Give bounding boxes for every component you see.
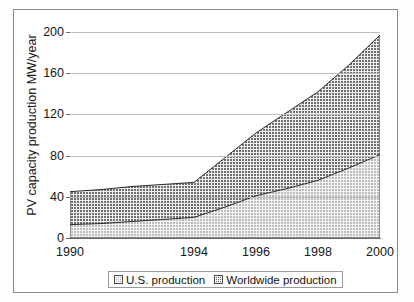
gridline xyxy=(70,114,380,115)
y-tick-label: 200 xyxy=(4,25,64,39)
y-tick-label: 120 xyxy=(4,107,64,121)
us-swatch-icon xyxy=(114,275,123,284)
legend-label-worldwide-production: Worldwide production xyxy=(226,274,336,286)
x-tick-label: 1998 xyxy=(304,245,332,259)
gridline xyxy=(70,73,380,74)
chart-legend: U.S. production Worldwide production xyxy=(108,271,343,288)
y-tick-label: 80 xyxy=(4,149,64,163)
area-series-group xyxy=(70,32,380,238)
x-tick-label: 1994 xyxy=(180,245,208,259)
y-tick-label: 0 xyxy=(4,231,64,245)
plot-area xyxy=(70,32,380,238)
x-axis-line xyxy=(70,238,381,239)
x-tick-label: 1996 xyxy=(242,245,270,259)
gridline xyxy=(70,32,380,33)
worldwide-swatch-icon xyxy=(214,275,223,284)
y-tick-label: 40 xyxy=(4,190,64,204)
x-tick-label: 2000 xyxy=(366,245,394,259)
x-tick-label: 1990 xyxy=(56,245,84,259)
gridline xyxy=(70,197,380,198)
legend-entry-worldwide-production: Worldwide production xyxy=(214,274,336,286)
legend-label-us-production: U.S. production xyxy=(126,274,205,286)
chart-figure: PV capacity production MW/year 040801201… xyxy=(0,0,414,302)
legend-entry-us-production: U.S. production xyxy=(114,274,205,286)
y-tick-label: 160 xyxy=(4,66,64,80)
y-axis-ticks: 04080120160200 xyxy=(0,0,64,302)
gridline xyxy=(70,156,380,157)
plot-inner xyxy=(70,32,380,238)
